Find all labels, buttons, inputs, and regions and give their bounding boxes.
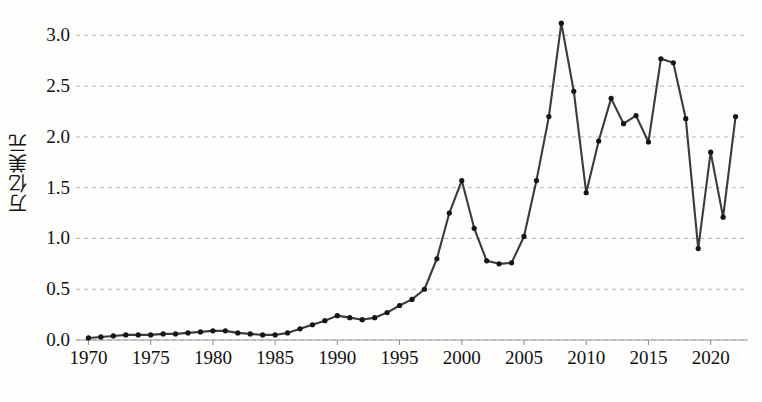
data-point — [98, 334, 103, 339]
x-tick-label: 1980 — [183, 348, 243, 367]
x-tick-label: 2005 — [494, 348, 554, 367]
data-point — [235, 330, 240, 335]
data-point — [161, 331, 166, 336]
x-axis-tick-labels: 1970197519801985199019952000200520102015… — [0, 348, 762, 382]
data-point — [409, 297, 414, 302]
data-point — [559, 21, 564, 26]
data-point — [733, 114, 738, 119]
y-tick-label: 0.5 — [26, 279, 70, 298]
y-tick-label: 2.5 — [26, 76, 70, 95]
data-point — [322, 318, 327, 323]
data-point — [534, 178, 539, 183]
data-point — [223, 328, 228, 333]
x-tick-label: 1990 — [307, 348, 367, 367]
data-point — [297, 326, 302, 331]
data-point — [609, 96, 614, 101]
x-tick-label: 1985 — [245, 348, 305, 367]
x-tick-label: 2000 — [432, 348, 492, 367]
data-point — [584, 190, 589, 195]
data-point — [497, 261, 502, 266]
data-point — [484, 258, 489, 263]
data-point — [708, 150, 713, 155]
x-tick-label: 2010 — [556, 348, 616, 367]
data-point — [621, 121, 626, 126]
data-point — [347, 315, 352, 320]
data-point — [459, 178, 464, 183]
x-tick-label: 1975 — [121, 348, 181, 367]
plot-area — [76, 10, 748, 340]
data-point — [185, 330, 190, 335]
data-point — [422, 287, 427, 292]
data-point — [285, 330, 290, 335]
data-point — [148, 332, 153, 337]
data-point — [683, 116, 688, 121]
y-tick-label: 2.0 — [26, 127, 70, 146]
data-point — [721, 215, 726, 220]
y-tick-label: 0.0 — [26, 330, 70, 349]
data-point — [372, 315, 377, 320]
data-point — [571, 89, 576, 94]
data-point — [646, 139, 651, 144]
data-point — [633, 113, 638, 118]
data-series — [86, 21, 738, 341]
data-point — [671, 60, 676, 65]
x-tick-label: 1995 — [370, 348, 430, 367]
data-point — [397, 303, 402, 308]
data-point — [360, 317, 365, 322]
data-point — [273, 332, 278, 337]
data-point — [658, 56, 663, 61]
data-point — [136, 332, 141, 337]
x-tick-label: 2015 — [618, 348, 678, 367]
data-point — [447, 210, 452, 215]
data-point — [696, 246, 701, 251]
data-point — [472, 226, 477, 231]
data-point — [509, 260, 514, 265]
data-point — [198, 329, 203, 334]
data-point — [596, 138, 601, 143]
data-point — [546, 114, 551, 119]
data-point — [248, 331, 253, 336]
data-point — [210, 328, 215, 333]
y-axis-tick-labels: 0.00.51.01.52.02.53.0 — [20, 0, 70, 402]
y-tick-label: 1.5 — [26, 178, 70, 197]
data-point — [434, 256, 439, 261]
data-point — [310, 322, 315, 327]
data-point — [111, 333, 116, 338]
data-point — [521, 234, 526, 239]
y-tick-label: 3.0 — [26, 25, 70, 44]
x-tick-label: 1970 — [58, 348, 118, 367]
chart-container: 万亿美元 0.00.51.01.52.02.53.0 1970197519801… — [0, 0, 762, 402]
gridlines — [76, 35, 748, 340]
series-line — [88, 23, 735, 338]
data-point — [260, 332, 265, 337]
data-point — [385, 310, 390, 315]
y-tick-label: 1.0 — [26, 228, 70, 247]
data-point — [173, 331, 178, 336]
data-point — [335, 313, 340, 318]
data-point — [86, 335, 91, 340]
x-tick-label: 2020 — [681, 348, 741, 367]
x-axis-tick-marks — [88, 340, 710, 345]
data-point — [123, 332, 128, 337]
chart-plot-svg — [76, 10, 748, 340]
